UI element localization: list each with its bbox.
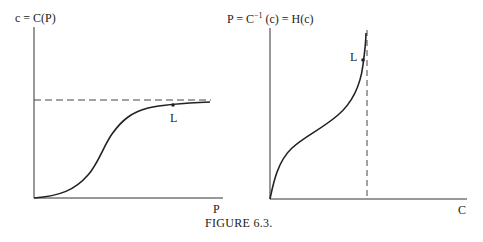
right-plot: [270, 28, 467, 199]
right-point-l: [361, 58, 365, 62]
right-y-label-suffix: (c) = H(c): [263, 12, 314, 26]
left-x-axis-label: P: [213, 202, 220, 217]
left-plot: [34, 27, 223, 198]
right-y-axis-label: P = C−1 (c) = H(c): [227, 11, 314, 27]
left-curve: [34, 102, 210, 198]
right-y-label-sup: −1: [254, 11, 263, 20]
right-x-axis-label: C: [458, 203, 466, 218]
figure-canvas: [0, 0, 483, 242]
left-point-label: L: [170, 111, 177, 126]
right-y-label-prefix: P = C: [227, 12, 254, 26]
left-y-axis-label: c = C(P): [15, 11, 56, 26]
figure-caption: FIGURE 6.3.: [205, 216, 273, 231]
left-point-l: [171, 103, 175, 107]
right-point-label: L: [350, 50, 357, 65]
